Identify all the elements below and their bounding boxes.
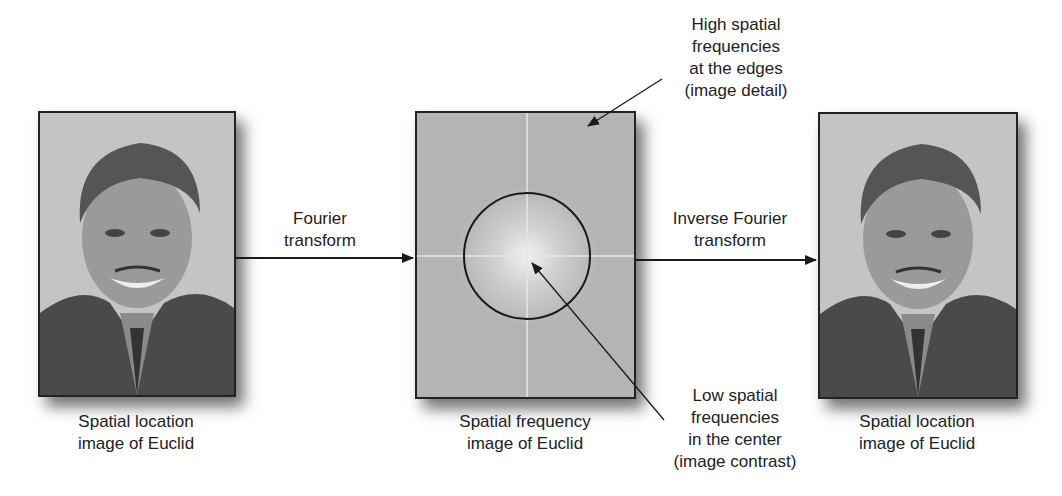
right-caption: Spatial location image of Euclid [817,411,1017,455]
low-frequency-annotation: Low spatial frequencies in the center (i… [660,385,810,473]
frequency-image [415,111,636,399]
left-caption: Spatial location image of Euclid [36,411,236,455]
fourier-transform-label: Fourier transform [260,208,380,252]
portrait-icon [820,114,1016,397]
portrait-icon [40,113,234,395]
high-frequency-annotation: High spatial frequencies at the edges (i… [666,14,806,102]
middle-caption: Spatial frequency image of Euclid [415,411,635,455]
left-spatial-image [38,111,236,397]
inverse-fourier-label: Inverse Fourier transform [650,208,810,252]
right-spatial-image [818,112,1018,399]
